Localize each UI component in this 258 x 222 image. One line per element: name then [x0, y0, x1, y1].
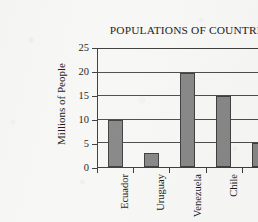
- y-tick-label: 0: [84, 163, 89, 173]
- x-tick-mark: [133, 168, 134, 173]
- chart-title: POPULATIONS OF COUNTRIES: [92, 24, 258, 37]
- y-tick-label: 15: [79, 91, 90, 101]
- y-tick-label: 10: [79, 115, 90, 125]
- x-tick-label-venezuela: Venezuela: [192, 174, 203, 217]
- y-tick: 15: [79, 91, 98, 101]
- bar-slot: [98, 49, 134, 167]
- y-tick: 20: [79, 67, 98, 77]
- y-axis-ticks: 0510152025: [40, 48, 97, 168]
- bar-ecuador: [108, 120, 123, 167]
- bar-chart-figure: POPULATIONS OF COUNTRIES Millions of Peo…: [40, 16, 218, 206]
- bars-layer: [98, 49, 258, 167]
- y-tick-label: 5: [84, 139, 89, 149]
- x-axis-labels: EcuadorUruguayVenezuelaChileParaguay: [97, 174, 258, 222]
- x-label-slot: Venezuela: [169, 174, 205, 222]
- x-tick-mark: [206, 168, 207, 173]
- bar-slot: [241, 49, 258, 167]
- y-tick: 25: [79, 43, 98, 53]
- y-tick: 10: [79, 115, 98, 125]
- bar-paraguay: [252, 143, 258, 167]
- x-label-slot: Paraguay: [242, 174, 258, 222]
- bar-slot: [170, 49, 206, 167]
- y-tick-label: 20: [79, 67, 90, 77]
- x-label-slot: Chile: [206, 174, 242, 222]
- bar-chile: [216, 96, 231, 167]
- bar-slot: [134, 49, 170, 167]
- x-tick-mark: [97, 168, 98, 173]
- y-tick-label: 25: [79, 43, 90, 53]
- x-label-slot: Uruguay: [133, 174, 169, 222]
- bar-slot: [205, 49, 241, 167]
- x-tick-label-chile: Chile: [228, 174, 239, 197]
- x-tick-label-uruguay: Uruguay: [155, 174, 166, 211]
- y-tick: 0: [84, 163, 97, 173]
- x-label-slot: Ecuador: [97, 174, 133, 222]
- x-tick-label-ecuador: Ecuador: [119, 174, 130, 209]
- y-tick: 5: [84, 139, 97, 149]
- x-tick-mark: [169, 168, 170, 173]
- bar-venezuela: [180, 73, 195, 167]
- plot-area: [97, 48, 258, 168]
- x-tick-mark: [242, 168, 243, 173]
- bar-uruguay: [144, 153, 159, 167]
